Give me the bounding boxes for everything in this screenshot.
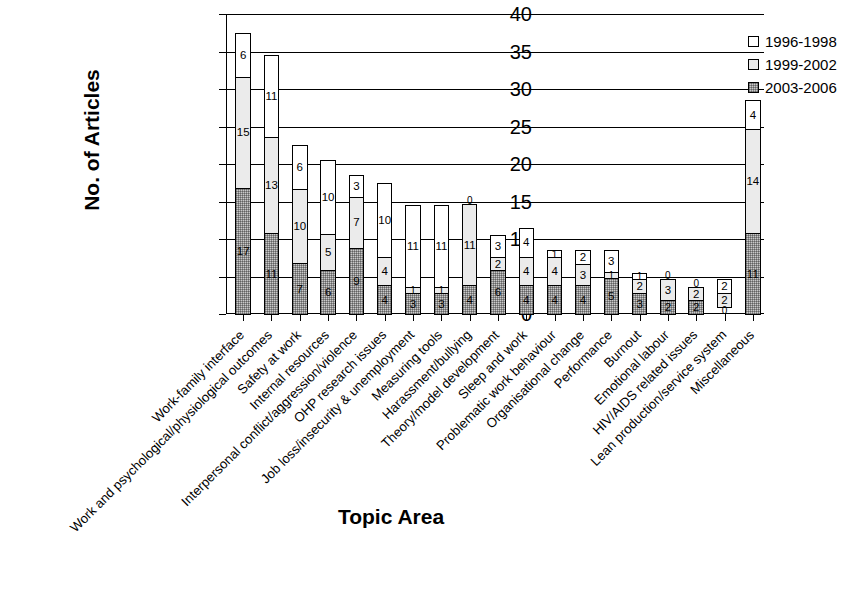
x-tick-mark [498,314,499,321]
bar-value-label: 4 [580,295,586,306]
bar-segment-1999-2002: 5 [320,234,336,272]
bar-value-label: 4 [551,266,557,277]
bar-value-label: 1 [439,285,445,296]
bar-stack: 220 [717,279,733,314]
bar-value-label: 9 [353,276,359,287]
bar-value-label: 4 [523,237,529,248]
bar-value-label: 1 [608,270,614,281]
bar-stack: 326 [490,235,506,314]
bar-segment-1999-2002: 4 [377,257,393,287]
bar-value-label: 4 [750,110,756,121]
bar-stack: 1044 [377,183,393,314]
bar-value-label: 3 [636,299,642,310]
x-tick-mark [385,314,386,321]
bar-segment-2003-2006: 5 [604,278,620,316]
bar-value-label: 2 [495,259,501,270]
bar-stack: 032 [660,271,676,314]
bar-group: 6151711131161071056379104411131113011432… [226,14,764,314]
bar-segment-1996-1998: 11 [434,205,450,288]
bar-value-label: 4 [523,266,529,277]
bar-value-label: 3 [665,285,671,296]
bar-segment-2003-2006: 4 [519,285,535,315]
bar-value-label: 5 [608,291,614,302]
bar-value-label: 4 [382,266,388,277]
x-tick-mark [413,314,414,321]
bar-segment-1999-2002: 3 [660,279,676,302]
legend-label-1999-2002: 1999-2002 [765,56,837,73]
bar-value-label: 4 [382,295,388,306]
bar-value-label: 0 [467,195,473,206]
bar-value-label: 11 [435,241,447,252]
bar-stack: 123 [632,273,648,314]
bar-stack: 022 [688,279,704,314]
bar-stack: 1113 [405,205,421,314]
chart-plot-area: 0510152025303540 61517111311610710563791… [226,14,764,314]
bar-value-label: 3 [495,241,501,252]
bar-value-label: 1 [410,285,416,296]
bar-value-label: 0 [665,270,671,281]
y-tick-mark-40 [219,14,226,15]
bar-value-label: 3 [410,299,416,310]
bar-value-label: 4 [466,295,472,306]
x-axis-title: Topic Area [0,505,782,529]
bar-segment-2003-2006: 11 [745,233,761,316]
bar-segment-1999-2002: 4 [547,257,563,287]
legend-swatch-1996-1998 [748,36,759,47]
y-tick-mark-15 [219,202,226,203]
x-tick-mark [696,314,697,321]
y-tick-mark-30 [219,89,226,90]
bar-segment-1999-2002: 3 [575,264,591,287]
bar-segment-2003-2006: 6 [490,270,506,315]
bar-value-label: 11 [265,91,277,102]
bar-value-label: 2 [721,281,727,292]
x-tick-mark [271,314,272,321]
bar-segment-1996-1998: 10 [377,183,393,258]
bar-segment-2003-2006: 4 [575,285,591,315]
bar-stack: 111311 [264,55,280,314]
bar-segment-2003-2006: 7 [292,263,308,316]
bar-value-label: 11 [265,269,277,280]
bar-value-label: 6 [297,162,303,173]
bar-segment-2003-2006: 11 [264,233,280,316]
bar-segment-1996-1998: 4 [519,228,535,258]
bar-value-label: 4 [551,295,557,306]
bar-stack: 315 [604,250,620,314]
bar-value-label: 11 [407,241,419,252]
bar-segment-1996-1998: 10 [320,160,336,235]
bar-value-label: 3 [608,256,614,267]
x-tick-mark [640,314,641,321]
bar-value-label: 3 [438,299,444,310]
y-tick-mark-0 [219,314,226,315]
bar-segment-1999-2002: 10 [292,189,308,264]
bar-segment-2003-2006: 3 [405,293,421,316]
bar-stack: 61517 [235,33,251,314]
x-tick-mark [470,314,471,321]
bar-stack: 234 [575,250,591,314]
bar-stack: 1113 [434,205,450,314]
bar-segment-2003-2006: 3 [434,293,450,316]
bar-value-label: 7 [297,284,303,295]
legend-swatch-1999-2002 [748,59,759,70]
bar-segment-2003-2006: 9 [349,248,365,316]
bar-value-label: 15 [237,127,250,138]
bar-segment-1996-1998: 3 [349,175,365,198]
legend-label-1996-1998: 1996-1998 [765,33,837,50]
bar-segment-1996-1998: 3 [490,235,506,258]
bar-value-label: 2 [580,252,586,263]
bar-segment-1996-1998: 4 [745,100,761,130]
bar-segment-2003-2006: 3 [632,293,648,316]
bar-segment-1999-2002: 15 [235,77,251,190]
x-tick-mark [356,314,357,321]
x-tick-mark [300,314,301,321]
bar-segment-2003-2006: 6 [320,270,336,315]
y-axis-title: No. of Articles [80,40,120,240]
bar-stack: 379 [349,175,365,314]
bar-segment-2003-2006: 4 [462,285,478,315]
x-tick-mark [555,314,556,321]
legend-item-2003-2006: 2003-2006 [748,76,841,99]
bar-value-label: 3 [353,181,359,192]
bar-value-label: 2 [636,281,642,292]
legend-item-1999-2002: 1999-2002 [748,53,841,76]
legend-item-1996-1998: 1996-1998 [748,30,841,53]
bar-value-label: 11 [464,240,476,251]
